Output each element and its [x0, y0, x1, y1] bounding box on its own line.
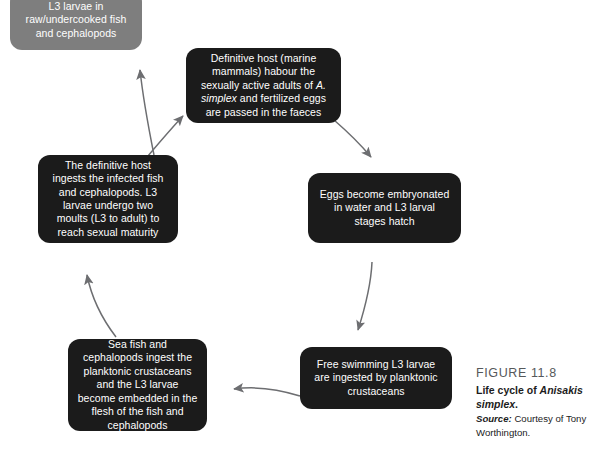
- arrow-definitive-host-to-eggs: [334, 120, 371, 157]
- node-sea-fish-cephalopods: Sea fish and cephalopods ingest the plan…: [68, 339, 207, 431]
- figure-canvas: L3 larvae in raw/undercooked fish and ce…: [0, 0, 613, 463]
- figure-source-label: Source:: [476, 413, 512, 424]
- node-definitive-host-part-1: Definitive host (marine mammals) habour …: [201, 52, 316, 91]
- node-host-ingests-fish-label: The definitive host ingests the infected…: [47, 159, 169, 239]
- figure-title-suffix: .: [515, 398, 518, 410]
- arrow-free-swimming-to-sea-fish: [234, 388, 300, 396]
- node-free-swimming-larvae: Free swimming L3 larvae are ingested by …: [300, 347, 452, 409]
- node-human-consumption: L3 larvae in raw/undercooked fish and ce…: [10, 0, 142, 50]
- arrow-eggs-to-free-swimming: [358, 262, 372, 330]
- node-definitive-host: Definitive host (marine mammals) habour …: [186, 48, 341, 123]
- figure-title: Life cycle of Anisakis simplex.: [476, 383, 611, 411]
- figure-caption: FIGURE 11.8 Life cycle of Anisakis simpl…: [476, 366, 611, 440]
- figure-number: FIGURE 11.8: [476, 366, 611, 381]
- node-sea-fish-cephalopods-label: Sea fish and cephalopods ingest the plan…: [77, 338, 198, 432]
- figure-title-prefix: Life cycle of: [476, 384, 540, 396]
- node-free-swimming-larvae-label: Free swimming L3 larvae are ingested by …: [309, 358, 443, 398]
- arrow-host-ingests-to-human-consumption: [140, 70, 154, 155]
- node-human-consumption-label: L3 larvae in raw/undercooked fish and ce…: [19, 0, 133, 40]
- node-eggs-embryonated: Eggs become embryonated in water and L3 …: [308, 173, 461, 243]
- figure-source: Source: Courtesy of Tony Worthington.: [476, 412, 611, 440]
- arrow-sea-fish-to-host-ingests: [87, 275, 116, 337]
- node-eggs-embryonated-label: Eggs become embryonated in water and L3 …: [317, 188, 452, 228]
- node-host-ingests-fish: The definitive host ingests the infected…: [38, 155, 178, 243]
- node-definitive-host-label: Definitive host (marine mammals) habour …: [195, 52, 332, 119]
